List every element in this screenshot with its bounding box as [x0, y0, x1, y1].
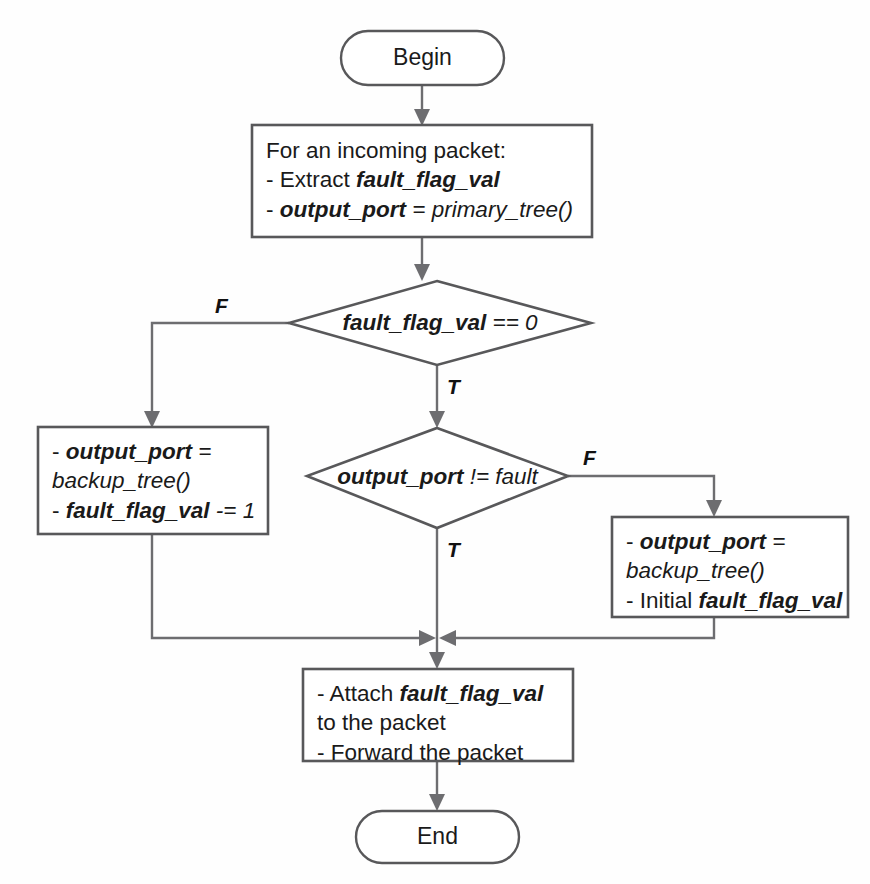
- connector-begin-to-extract: [414, 84, 430, 126]
- node-decision-fault-flag[interactable]: [289, 281, 591, 365]
- connector-decision-port-false: [568, 476, 722, 517]
- node-end[interactable]: [356, 811, 519, 863]
- connector-decision-flag-false: [144, 323, 289, 428]
- flowchart-canvas: Begin For an incoming packet: - Extract …: [0, 0, 870, 884]
- node-begin[interactable]: [341, 31, 504, 85]
- connector-decision-flag-true: [429, 365, 445, 428]
- flowchart-svg: [0, 0, 870, 884]
- connector-extract-to-decision-flag: [414, 237, 430, 281]
- connector-attach-to-end: [429, 761, 445, 811]
- connector-backup-initial-to-merge: [439, 617, 714, 646]
- node-backup-decrement[interactable]: [38, 427, 268, 534]
- connector-decision-port-true: [429, 528, 445, 669]
- node-decision-output-port[interactable]: [307, 428, 568, 528]
- node-backup-initial[interactable]: [612, 517, 848, 617]
- connector-backup-decrement-to-merge: [152, 534, 436, 646]
- node-extract-process[interactable]: [252, 125, 592, 237]
- node-attach-forward[interactable]: [303, 669, 573, 761]
